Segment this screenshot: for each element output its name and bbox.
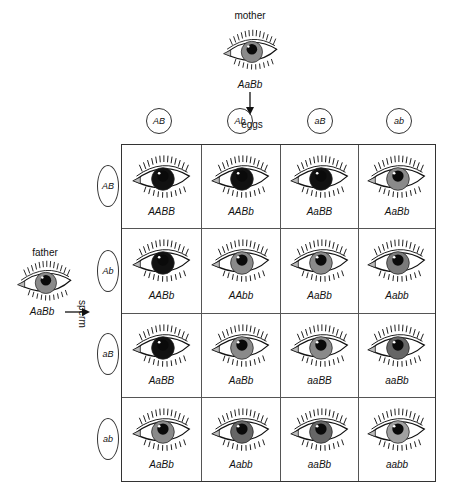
- punnett-cell: AaBb: [122, 398, 202, 481]
- punnett-square: AABB AABb AaBB AaBb AABb: [121, 144, 436, 482]
- eye-icon: [208, 314, 274, 374]
- offspring-genotype: AABB: [148, 206, 175, 217]
- offspring-genotype: AaBb: [149, 459, 173, 470]
- punnett-cell: AaBb: [281, 229, 359, 314]
- offspring-genotype: AAbb: [229, 290, 253, 301]
- eye-icon: [364, 314, 430, 374]
- egg-gamete-AB: AB: [146, 108, 172, 134]
- offspring-genotype: AaBB: [307, 206, 333, 217]
- eye-icon: [208, 145, 274, 205]
- punnett-cell: aabb: [359, 398, 435, 481]
- offspring-genotype: aabb: [386, 459, 408, 470]
- offspring-genotype: AaBB: [149, 375, 175, 386]
- punnett-cell: aaBB: [281, 314, 359, 398]
- punnett-cell: AaBb: [202, 314, 281, 398]
- punnett-cell: Aabb: [359, 229, 435, 314]
- egg-gamete-ab: ab: [386, 108, 412, 134]
- sperm-gamete-AB: AB: [97, 165, 119, 207]
- punnett-cell: AABb: [202, 145, 281, 229]
- sperm-gamete-Ab: Ab: [97, 250, 119, 292]
- father-eye-icon: [14, 259, 76, 309]
- mother-eye-icon: [220, 24, 282, 82]
- father-genotype: AaBb: [22, 306, 62, 317]
- eye-icon: [287, 314, 353, 374]
- father-label: father: [20, 247, 70, 258]
- eye-icon: [364, 398, 430, 458]
- punnett-cell: aaBb: [359, 314, 435, 398]
- eye-icon: [129, 398, 195, 458]
- offspring-genotype: aaBB: [307, 375, 331, 386]
- eye-icon: [364, 229, 430, 289]
- mother-genotype: AaBb: [220, 79, 280, 90]
- punnett-cell: aaBb: [281, 398, 359, 481]
- punnett-cell: AaBb: [359, 145, 435, 229]
- sperm-gamete-ab: ab: [97, 418, 119, 460]
- eye-icon: [129, 145, 195, 205]
- sperm-gamete-aB: aB: [97, 333, 119, 375]
- punnett-cell: AAbb: [202, 229, 281, 314]
- eye-icon: [129, 314, 195, 374]
- offspring-genotype: AaBb: [385, 206, 409, 217]
- offspring-genotype: Aabb: [229, 459, 252, 470]
- punnett-cell: AaBB: [122, 314, 202, 398]
- eye-icon: [287, 229, 353, 289]
- eye-icon: [129, 229, 195, 289]
- punnett-cell: AABb: [122, 229, 202, 314]
- offspring-genotype: AABb: [149, 290, 175, 301]
- offspring-genotype: AaBb: [307, 290, 331, 301]
- eye-icon: [287, 398, 353, 458]
- eye-icon: [208, 229, 274, 289]
- offspring-genotype: Aabb: [385, 290, 408, 301]
- eye-icon: [287, 145, 353, 205]
- offspring-genotype: AaBb: [229, 375, 253, 386]
- offspring-genotype: aaBb: [385, 375, 408, 386]
- punnett-cell: AaBB: [281, 145, 359, 229]
- egg-gamete-aB: aB: [307, 108, 333, 134]
- sperm-label: sperm: [77, 300, 88, 328]
- eye-icon: [208, 398, 274, 458]
- offspring-genotype: aaBb: [308, 459, 331, 470]
- punnett-cell: Aabb: [202, 398, 281, 481]
- egg-gamete-Ab: Ab: [227, 108, 253, 134]
- eye-icon: [364, 145, 430, 205]
- offspring-genotype: AABb: [228, 206, 254, 217]
- punnett-cell: AABB: [122, 145, 202, 229]
- mother-label: mother: [220, 10, 280, 21]
